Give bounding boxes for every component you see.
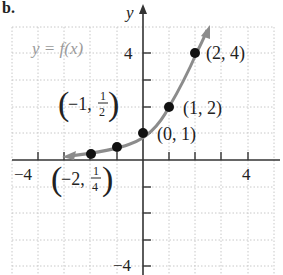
part-marker: b. — [2, 0, 15, 16]
y-axis-label: y — [124, 3, 134, 22]
svg-text:): ) — [108, 85, 119, 123]
y-tick-label-4: 4 — [124, 44, 133, 63]
svg-text:−1,: −1, — [68, 94, 92, 114]
point-label-neg2-quarter: ( −2, 1 4 ) — [51, 160, 113, 198]
point-0 — [138, 128, 148, 138]
point-neg2 — [86, 149, 96, 159]
function-graph: b. y y = f(x) 4 −4 −4 4 (2, 4) (1, 2) (0… — [0, 0, 283, 275]
svg-text:2: 2 — [99, 105, 105, 119]
x-tick-label-neg4: −4 — [14, 165, 33, 184]
svg-text:): ) — [102, 160, 113, 198]
point-1 — [164, 102, 174, 112]
point-label-2-4: (2, 4) — [206, 43, 245, 64]
svg-text:1: 1 — [93, 164, 99, 178]
x-tick-label-4: 4 — [242, 165, 251, 184]
y-axis-arrow-icon — [139, 4, 147, 14]
point-label-0-1: (0, 1) — [157, 124, 196, 145]
point-label-1-2: (1, 2) — [183, 98, 222, 119]
point-label-neg1-half: ( −1, 1 2 ) — [58, 85, 119, 123]
y-tick-label-neg4: −4 — [113, 256, 132, 275]
function-label: y = f(x) — [30, 39, 83, 58]
svg-text:−2,: −2, — [61, 169, 85, 189]
svg-text:4: 4 — [92, 180, 98, 194]
point-neg1 — [112, 142, 122, 152]
svg-text:1: 1 — [100, 89, 106, 103]
point-2 — [190, 48, 200, 58]
